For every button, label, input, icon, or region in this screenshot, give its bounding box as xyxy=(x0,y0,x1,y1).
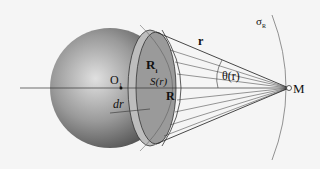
label-R: R xyxy=(166,90,175,102)
label-r: r xyxy=(198,35,203,47)
label-theta: θ(r) xyxy=(222,70,240,82)
point-M xyxy=(287,86,292,91)
label-sigma: σR xyxy=(256,16,266,29)
label-s-r: S(r) xyxy=(150,76,167,87)
label-dr: dr xyxy=(113,98,124,110)
sphere-cone-diagram: O1 Ri S(r) R dr r θ(r) M σR xyxy=(0,0,320,169)
label-r-i: Ri xyxy=(146,58,157,75)
label-M: M xyxy=(293,82,305,95)
label-origin: O1 xyxy=(110,74,122,89)
